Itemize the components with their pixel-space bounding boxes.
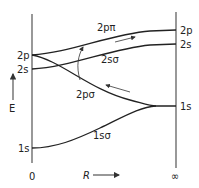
left-label-2s: 2s [17, 63, 28, 76]
x-label-infinity: ∞ [171, 170, 179, 183]
left-label-2p: 2p [17, 49, 30, 62]
correlation-diagram: E 2p 2s 1s 2p 2s 1s 2pπ 2sσ 2pσ 1sσ 0 R … [0, 0, 199, 188]
left-arrow-icon [106, 85, 130, 92]
left-label-1s: 1s [18, 142, 29, 155]
curved-arrow-icon [78, 47, 83, 80]
x-label-r: R [83, 169, 90, 182]
label-2p-sigma: 2pσ [76, 88, 95, 101]
label-1s-sigma: 1sσ [93, 129, 111, 142]
energy-label: E [9, 102, 15, 115]
right-arrow-icon [115, 37, 135, 42]
right-label-2s: 2s [180, 38, 191, 51]
x-label-zero: 0 [29, 170, 35, 183]
right-label-2p: 2p [180, 24, 193, 37]
right-label-1s: 1s [180, 100, 191, 113]
label-2p-pi: 2pπ [97, 21, 116, 34]
label-2s-sigma: 2sσ [101, 53, 119, 66]
